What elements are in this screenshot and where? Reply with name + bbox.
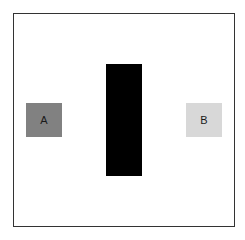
box-b-label: B (200, 114, 207, 126)
box-a: A (26, 103, 62, 137)
box-b: B (186, 103, 222, 137)
box-a-label: A (40, 114, 47, 126)
center-barrier (106, 64, 142, 176)
